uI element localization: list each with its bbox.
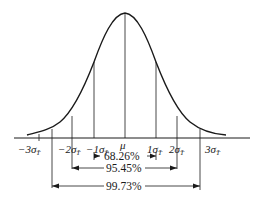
arrow-left-icon — [52, 184, 59, 189]
label-pos2-sigma: 2σT̄ — [169, 143, 185, 157]
arrow-right-icon — [193, 184, 200, 189]
interval-99: 99.73% — [52, 180, 200, 192]
label-68-26: 68.26% — [104, 150, 140, 162]
label-95-45: 95.45% — [106, 162, 142, 174]
bell-curve — [27, 13, 226, 135]
label-99-73: 99.73% — [106, 180, 142, 192]
normal-distribution-diagram: −3σT̄ −2σT̄ −1σT̄ μ 1σT̄ 2σT̄ 3σT̄ 68.26… — [0, 0, 254, 205]
label-pos1-sigma: 1σT̄ — [147, 143, 163, 157]
interval-95: 95.45% — [72, 162, 177, 174]
label-pos3-sigma: 3σT̄ — [204, 143, 221, 157]
label-neg3-sigma: −3σT̄ — [18, 143, 41, 157]
arrow-left-icon — [72, 166, 79, 171]
arrow-right-icon — [170, 166, 177, 171]
label-neg2-sigma: −2σT̄ — [58, 143, 81, 157]
